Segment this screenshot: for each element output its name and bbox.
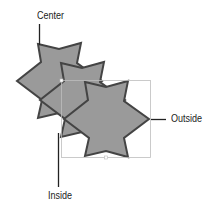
outside-label: Outside <box>171 112 202 124</box>
stroke-alignment-diagram <box>0 0 216 206</box>
bbox-handle-bottom-mid <box>105 156 108 159</box>
bbox-handle-top-left <box>60 79 63 82</box>
center-label: Center <box>37 9 64 21</box>
inside-label: Inside <box>48 189 72 201</box>
